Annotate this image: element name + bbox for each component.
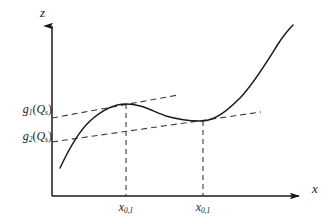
x-tick-second-index: 0,1 xyxy=(201,206,210,215)
y-tick-g1-index: 1 xyxy=(29,108,33,117)
y-tick-g2-paren-close: ) xyxy=(48,129,52,143)
y-tick-g1-base: g xyxy=(23,102,29,116)
x-tick-label-first: x0,1 xyxy=(103,201,149,213)
x-tick-label-second: x0,1 xyxy=(180,201,226,213)
y-tick-g1-arg: Q xyxy=(36,102,45,116)
x-tick-first-index: 0,1 xyxy=(124,206,133,215)
y-tick-g2-arg-index: s xyxy=(45,135,48,144)
y-tick-g1-paren-close: ) xyxy=(48,102,52,116)
main-curve xyxy=(60,25,293,168)
figure-container: z x g1(Qs) g2(Qs) x0,1 x0,1 xyxy=(0,0,330,224)
tangent-line-upper xyxy=(52,95,178,118)
x-axis-label: x xyxy=(312,182,318,195)
y-tick-label-g2: g2(Qs) xyxy=(6,130,52,142)
y-tick-g2-base: g xyxy=(23,129,29,143)
y-tick-g2-index: 2 xyxy=(29,135,33,144)
y-tick-g2-arg: Q xyxy=(36,129,45,143)
y-tick-label-g1: g1(Qs) xyxy=(6,103,52,115)
y-axis-label: z xyxy=(40,6,45,19)
y-tick-g1-arg-index: s xyxy=(45,108,48,117)
